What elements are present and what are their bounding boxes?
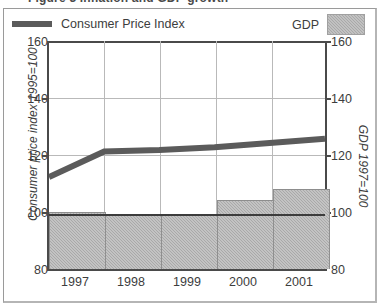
x-axis-tick-1999: 1999 [159,275,215,289]
chart-figure: Consumer Price Index GDP Consumer price … [3,8,377,303]
legend-item-gdp: GDP [292,14,365,35]
figure-title: Figure 3 Inflation and GDP growth [28,0,228,5]
legend-line-swatch-icon [12,21,52,27]
legend-label-consumer-price-index: Consumer Price Index [61,17,185,31]
legend-label-gdp: GDP [292,18,319,32]
figure-title-strip: Figure 3 Inflation and GDP growth [0,0,385,7]
x-axis-tick-1998: 1998 [103,275,159,289]
x-axis-tick-2001: 2001 [271,275,327,289]
y-axis-right-tick-160: 160 [331,36,371,49]
y-axis-left-tick-80: 80 [8,264,48,277]
y-axis-right-tick-120: 120 [331,150,371,163]
cpi-polyline [49,139,325,177]
y-axis-right-tick-80: 80 [331,264,371,277]
x-axis-tick-2000: 2000 [215,275,271,289]
y-axis-right-tick-100: 100 [331,207,371,220]
legend-item-consumer-price-index: Consumer Price Index [12,17,185,31]
consumer-price-index-line[interactable] [49,41,325,268]
y-axis-left-tick-160: 160 [8,36,48,49]
y-axis-right-tick-140: 140 [331,93,371,106]
y-axis-left-title: Consumer price index 1995=100 [26,51,40,221]
plot-area [47,41,327,271]
x-axis-tick-1997: 1997 [47,275,103,289]
legend-bar-swatch-icon [327,14,365,35]
chart-legend: Consumer Price Index GDP [4,9,375,39]
